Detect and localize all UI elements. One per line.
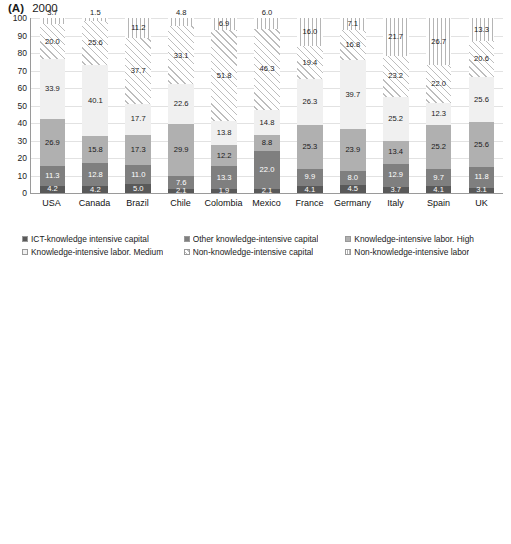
bar-segment[interactable]: 3.7: [383, 187, 409, 193]
y-axis-tick-2000: 50: [18, 101, 27, 111]
bar-segment[interactable]: 46.3: [254, 29, 280, 110]
bar-segment[interactable]: 25.2: [383, 97, 409, 141]
legend-item-4[interactable]: Knowledge-intensive labor. Medium: [22, 247, 184, 257]
bar-segment[interactable]: 5.0: [125, 184, 151, 193]
stacked-bar[interactable]: 3.720.033.926.911.34.2: [40, 18, 66, 193]
bar-column-uk[interactable]: 13.320.625.625.611.83.1: [460, 18, 503, 193]
bar-value-label: 12.9: [388, 171, 403, 179]
bar-segment[interactable]: 26.3: [297, 79, 323, 125]
stacked-bar[interactable]: 13.320.625.625.611.83.1: [469, 18, 495, 193]
stacked-bar[interactable]: 6.951.813.812.213.31.9: [211, 18, 237, 193]
bar-segment[interactable]: 4.1: [297, 186, 323, 193]
bar-segment[interactable]: 8.8: [254, 135, 280, 150]
stacked-bar[interactable]: 7.116.839.723.98.04.5: [340, 18, 366, 193]
bar-segment[interactable]: 29.9: [168, 124, 194, 176]
bar-column-colombia[interactable]: 6.951.813.812.213.31.9: [203, 18, 246, 193]
bar-column-brazil[interactable]: 11.237.717.717.311.05.0: [117, 18, 160, 193]
bar-column-spain[interactable]: 26.722.012.325.29.74.1: [417, 18, 460, 193]
bar-segment[interactable]: 11.8: [469, 167, 495, 188]
bar-column-france[interactable]: 16.019.426.325.39.94.1: [288, 18, 331, 193]
bar-segment[interactable]: 51.8: [211, 30, 237, 121]
bar-segment[interactable]: 22.0: [254, 151, 280, 190]
bar-segment[interactable]: 17.3: [125, 135, 151, 165]
bar-segment[interactable]: 8.0: [340, 171, 366, 185]
bar-segment[interactable]: 15.8: [82, 136, 108, 164]
bar-segment[interactable]: 7.1: [340, 18, 366, 30]
bar-segment[interactable]: 37.7: [125, 38, 151, 104]
bar-column-usa[interactable]: 3.720.033.926.911.34.2: [31, 18, 74, 193]
bar-segment[interactable]: 4.2: [40, 186, 66, 193]
legend-item-1[interactable]: ICT-knowledge intensive capital: [22, 234, 184, 244]
bar-segment[interactable]: 12.3: [426, 103, 452, 125]
bar-segment[interactable]: 23.2: [383, 56, 409, 97]
bar-segment[interactable]: 4.5: [340, 185, 366, 193]
bar-value-label: 37.7: [131, 67, 146, 75]
bar-segment[interactable]: 12.8: [82, 163, 108, 185]
bar-segment[interactable]: 26.7: [426, 18, 452, 65]
bar-segment[interactable]: 9.9: [297, 169, 323, 186]
bar-value-label: 26.7: [431, 38, 446, 46]
y-axis-tick-2000: 10: [18, 171, 27, 181]
stacked-bar[interactable]: 16.019.426.325.39.94.1: [297, 18, 323, 193]
legend-item-2[interactable]: Other knowledge-intensive capital: [184, 234, 346, 244]
y-axis-tick-2000: 40: [18, 118, 27, 128]
stacked-bar[interactable]: 26.722.012.325.29.74.1: [426, 18, 452, 193]
bar-segment[interactable]: 4.2: [82, 186, 108, 193]
bar-column-canada[interactable]: 1.525.640.115.812.84.2: [74, 18, 117, 193]
stacked-bar[interactable]: 6.046.314.88.822.02.1: [254, 18, 280, 193]
bar-segment[interactable]: 25.2: [426, 125, 452, 169]
bar-segment[interactable]: 12.2: [211, 145, 237, 166]
legend-item-5[interactable]: Non-knowledge-intensive capital: [184, 247, 346, 257]
bar-segment[interactable]: 40.1: [82, 65, 108, 135]
bar-segment[interactable]: 25.6: [82, 21, 108, 66]
bar-segment[interactable]: 33.9: [40, 59, 66, 118]
bar-column-italy[interactable]: 21.723.225.213.412.93.7: [374, 18, 417, 193]
bar-segment[interactable]: 6.9: [211, 18, 237, 30]
bar-segment[interactable]: 4.8: [168, 18, 194, 26]
bar-segment[interactable]: 11.3: [40, 166, 66, 186]
legend-item-6[interactable]: Non-knowledge-intensive labor: [345, 247, 507, 257]
legend-item-3[interactable]: Knowledge-intensive labor. High: [345, 234, 507, 244]
stacked-bar[interactable]: 1.525.640.115.812.84.2: [82, 18, 108, 193]
bar-segment[interactable]: 22.6: [168, 84, 194, 124]
bar-segment[interactable]: 25.6: [469, 122, 495, 167]
bar-segment[interactable]: 11.2: [125, 18, 151, 38]
legend-label: ICT-knowledge intensive capital: [31, 234, 149, 244]
bar-segment[interactable]: 9.7: [426, 169, 452, 186]
bar-segment[interactable]: 19.4: [297, 46, 323, 80]
bar-segment[interactable]: 16.0: [297, 18, 323, 46]
bar-segment[interactable]: 26.9: [40, 119, 66, 166]
bar-column-germany[interactable]: 7.116.839.723.98.04.5: [331, 18, 374, 193]
bar-segment[interactable]: 21.7: [383, 18, 409, 56]
bar-segment[interactable]: 13.3: [469, 18, 495, 41]
bar-segment[interactable]: 23.9: [340, 129, 366, 171]
bar-segment[interactable]: 12.9: [383, 164, 409, 187]
bar-segment[interactable]: 17.7: [125, 104, 151, 135]
bar-segment[interactable]: 4.1: [426, 186, 452, 193]
bar-segment[interactable]: 20.0: [40, 24, 66, 59]
bar-column-mexico[interactable]: 6.046.314.88.822.02.1: [246, 18, 289, 193]
bar-segment[interactable]: 20.6: [469, 41, 495, 77]
bar-segment[interactable]: 22.0: [426, 65, 452, 104]
bar-segment[interactable]: 25.6: [469, 77, 495, 122]
bar-column-chile[interactable]: 4.833.122.629.97.62.1: [160, 18, 203, 193]
stacked-bar[interactable]: 4.833.122.629.97.62.1: [168, 18, 194, 193]
bar-segment[interactable]: 33.1: [168, 26, 194, 84]
bar-segment[interactable]: 3.1: [469, 188, 495, 193]
bar-segment[interactable]: 13.4: [383, 141, 409, 164]
legend-swatch-icon: [22, 236, 28, 242]
bar-segment[interactable]: 14.8: [254, 110, 280, 136]
bar-segment[interactable]: 39.7: [340, 60, 366, 129]
bar-segment[interactable]: 1.9: [211, 189, 237, 192]
bar-segment[interactable]: 16.8: [340, 30, 366, 59]
x-axis-label-colombia: Colombia: [202, 198, 245, 208]
stacked-bar[interactable]: 21.723.225.213.412.93.7: [383, 18, 409, 193]
bar-segment[interactable]: 25.3: [297, 125, 323, 169]
bar-segment[interactable]: 2.1: [168, 189, 194, 193]
bar-segment[interactable]: 2.1: [254, 189, 280, 193]
bar-segment[interactable]: 6.0: [254, 18, 280, 29]
bar-segment[interactable]: 11.0: [125, 165, 151, 184]
stacked-bar[interactable]: 11.237.717.717.311.05.0: [125, 18, 151, 193]
bar-segment[interactable]: 13.8: [211, 121, 237, 145]
bar-value-label: 17.7: [131, 115, 146, 123]
